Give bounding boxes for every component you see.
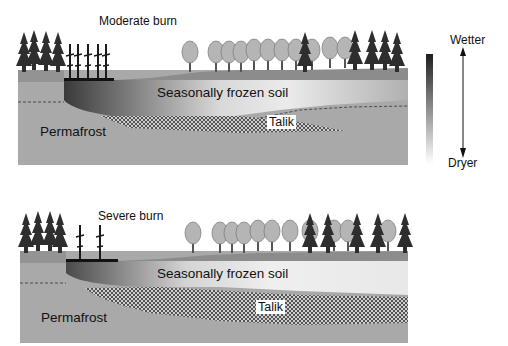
moisture-gradient-bar [420, 30, 508, 170]
label-talik: Talik [267, 115, 296, 129]
legend-dryer-label: Dryer [448, 156, 477, 170]
label-permafrost: Permafrost [40, 124, 106, 139]
label-permafrost: Permafrost [41, 310, 107, 325]
panel-title: Moderate burn [99, 14, 177, 28]
arrow-up-icon [460, 47, 466, 56]
label-frozen-soil: Seasonally frozen soil [157, 266, 288, 281]
panel-title: Severe burn [98, 209, 163, 223]
moisture-legend: Wetter Dryer [420, 30, 508, 170]
panel-severe-burn: Severe burn Seasonally frozen soil Talik… [0, 173, 420, 346]
label-frozen-soil: Seasonally frozen soil [157, 85, 288, 100]
legend-wetter-label: Wetter [450, 33, 485, 47]
label-talik: Talik [256, 300, 285, 314]
panel-moderate-burn: Moderate burn Seasonally frozen soil Tal… [0, 0, 420, 170]
